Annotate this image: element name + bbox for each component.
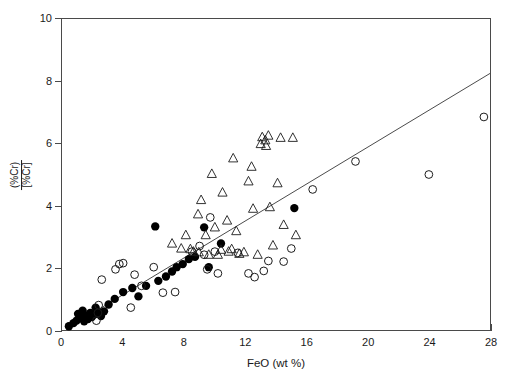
marker-open-triangle — [197, 195, 206, 204]
marker-open-triangle — [210, 222, 219, 231]
marker-open-triangle — [224, 247, 233, 256]
data-layer — [62, 19, 490, 330]
x-axis-label: FeO (wt %) — [61, 357, 491, 369]
marker-open-triangle — [181, 230, 190, 239]
y-tick-label: 10 — [26, 12, 52, 24]
marker-open-circle — [425, 171, 433, 179]
data-markers-group — [65, 113, 488, 330]
series-open-triangle — [167, 131, 300, 259]
marker-open-circle — [206, 214, 214, 222]
marker-filled-circle — [128, 284, 136, 292]
marker-filled-circle — [205, 263, 213, 271]
marker-open-circle — [309, 186, 317, 194]
marker-filled-circle — [134, 292, 142, 300]
marker-open-circle — [287, 245, 295, 253]
marker-filled-circle — [119, 288, 127, 296]
marker-open-circle — [214, 270, 222, 278]
marker-open-circle — [98, 276, 106, 284]
marker-open-circle — [264, 257, 272, 265]
marker-filled-circle — [290, 204, 298, 212]
marker-open-circle — [280, 258, 288, 266]
x-tick-label: 28 — [485, 336, 497, 348]
marker-open-circle — [260, 267, 268, 275]
y-axis-label-denominator: [%Cr] — [21, 160, 33, 190]
plot-area — [61, 18, 491, 331]
marker-open-triangle — [167, 239, 176, 248]
marker-open-circle — [480, 113, 488, 121]
marker-open-triangle — [273, 178, 282, 187]
y-tick-label: 6 — [26, 137, 52, 149]
y-axis-label: (%Cr) [%Cr] — [10, 160, 32, 190]
y-tick-label: 4 — [26, 200, 52, 212]
marker-filled-circle — [142, 282, 150, 290]
marker-open-triangle — [207, 169, 216, 178]
marker-open-triangle — [201, 230, 210, 239]
marker-open-circle — [159, 289, 167, 297]
marker-open-triangle — [253, 250, 262, 259]
series-open-circle — [93, 113, 488, 324]
marker-open-triangle — [279, 220, 288, 229]
y-tick-label: 8 — [26, 75, 52, 87]
marker-open-triangle — [288, 133, 297, 142]
marker-open-triangle — [291, 230, 300, 239]
x-tick — [491, 324, 492, 331]
scatter-plot-figure: (%Cr) [%Cr] FeO (wt %) 04812162024280246… — [0, 0, 510, 383]
marker-open-triangle — [244, 176, 253, 185]
x-tick-label: 12 — [239, 336, 251, 348]
x-tick-label: 8 — [181, 336, 187, 348]
marker-open-triangle — [276, 133, 285, 142]
y-tick-label: 0 — [26, 325, 52, 337]
marker-filled-circle — [154, 277, 162, 285]
marker-open-circle — [171, 288, 179, 296]
y-axis-label-numerator: (%Cr) — [10, 160, 21, 190]
x-tick-label: 4 — [119, 336, 125, 348]
x-tick-label: 24 — [423, 336, 435, 348]
marker-filled-circle — [111, 295, 119, 303]
marker-open-triangle — [232, 226, 241, 235]
marker-open-triangle — [268, 240, 277, 249]
marker-open-circle — [112, 265, 120, 273]
marker-open-triangle — [223, 216, 232, 225]
marker-filled-circle — [151, 222, 159, 230]
marker-open-circle — [251, 273, 259, 281]
marker-open-circle — [127, 304, 135, 312]
marker-filled-circle — [217, 239, 225, 247]
marker-open-circle — [150, 263, 158, 271]
marker-open-triangle — [248, 204, 257, 213]
marker-open-triangle — [177, 244, 186, 253]
x-tick-label: 16 — [301, 336, 313, 348]
y-tick-label: 2 — [26, 262, 52, 274]
marker-open-triangle — [247, 162, 256, 171]
marker-filled-circle — [200, 223, 208, 231]
marker-open-triangle — [218, 188, 227, 197]
x-tick-label: 0 — [58, 336, 64, 348]
marker-open-triangle — [193, 209, 202, 218]
marker-open-circle — [131, 271, 139, 279]
marker-open-triangle — [229, 153, 238, 162]
x-tick-label: 20 — [362, 336, 374, 348]
marker-open-circle — [352, 158, 360, 166]
y-tick — [55, 331, 62, 332]
